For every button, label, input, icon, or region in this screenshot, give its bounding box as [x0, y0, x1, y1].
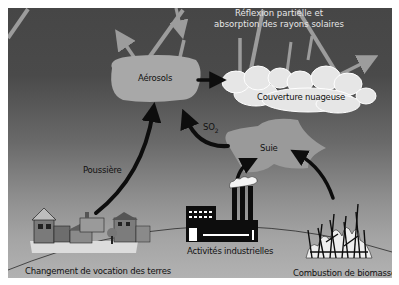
title-line-1: Réflexion partielle et: [184, 8, 374, 19]
label-biomass-burning: Combustion de biomasse: [293, 268, 392, 278]
label-so2: SO2: [203, 122, 218, 134]
title-line-2: absorption des rayons solaires: [184, 19, 374, 30]
houses-illustration: [30, 208, 150, 253]
factory-illustration: [186, 177, 258, 243]
arrow-dust: [96, 112, 153, 213]
biomass-fire-illustration: [306, 204, 372, 258]
label-cloud-cover: Couverture nuageuse: [257, 92, 345, 102]
cloud-shape: [222, 66, 376, 113]
label-industrial-activities: Activités industrielles: [187, 246, 273, 256]
label-land-use-change: Changement de vocation des terres: [25, 266, 171, 276]
solar-radiation-title: Réflexion partielle et absorption des ra…: [184, 8, 374, 30]
diagram-canvas: [8, 8, 392, 278]
label-soot: Suie: [260, 143, 278, 153]
label-aerosols: Aérosols: [138, 73, 172, 83]
label-dust: Poussière: [83, 165, 122, 175]
diagram-panel: Réflexion partielle et absorption des ra…: [8, 8, 392, 278]
